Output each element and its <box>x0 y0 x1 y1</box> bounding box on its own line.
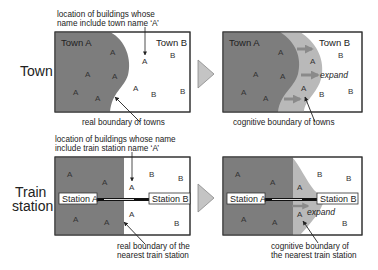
station-b-label: Station B <box>152 194 189 204</box>
letter-b: B <box>180 87 185 96</box>
letter-a: A <box>241 215 247 224</box>
town-note-line1: location of buildings whose <box>57 10 155 19</box>
letter-a: A <box>142 57 148 66</box>
letter-a: A <box>253 70 259 79</box>
station-cognitive-caption-line1: cognitive boundary of <box>271 242 350 251</box>
letter-a: A <box>112 72 118 81</box>
right-triangle-arrow-icon <box>198 184 214 212</box>
town-a-label: Town A <box>61 37 92 48</box>
letter-a: A <box>133 84 139 93</box>
letter-b: B <box>319 90 324 99</box>
letter-a: A <box>95 94 101 103</box>
letter-b: B <box>348 87 353 96</box>
row-label-train-line2: station <box>12 198 53 214</box>
letter-b: B <box>151 90 156 99</box>
station-b-label: Station B <box>320 194 357 204</box>
station-real-panel: location of buildings whose name include… <box>55 135 190 260</box>
expand-label: expand <box>320 70 348 80</box>
town-cognitive-caption: cognitive boundary of towns <box>233 118 335 127</box>
town-cognitive-panel: Town A Town B A A A A A A A B B B expand… <box>223 32 362 127</box>
station-note-line2: include train station name ‘A’ <box>55 144 159 153</box>
letter-a: A <box>102 178 108 187</box>
letter-b: B <box>317 170 322 179</box>
town-b-label: Town B <box>156 37 187 48</box>
letter-a: A <box>297 210 303 219</box>
letter-a: A <box>301 84 307 93</box>
station-a-label: Station A <box>230 194 266 204</box>
letter-b: B <box>178 174 183 183</box>
station-cognitive-panel: Station A Station B A A A A A A B B B ex… <box>223 157 362 260</box>
letter-a: A <box>73 215 79 224</box>
row-label-town: Town <box>20 63 53 79</box>
diagram-canvas: Town location of buildings whose name in… <box>0 0 378 270</box>
letter-a: A <box>67 170 73 179</box>
letter-b: B <box>170 51 175 60</box>
letter-b: B <box>342 219 347 228</box>
letter-a: A <box>241 88 247 97</box>
letter-a: A <box>280 72 286 81</box>
letter-a: A <box>85 70 91 79</box>
letter-a: A <box>129 183 135 192</box>
letter-a: A <box>270 178 276 187</box>
station-note-line1: location of buildings whose name <box>55 135 176 144</box>
letter-a: A <box>297 183 303 192</box>
station-cognitive-caption-line2: the nearest train station <box>271 251 357 260</box>
town-real-caption: real boundary of towns <box>82 118 165 127</box>
expand-label: expand <box>307 207 335 217</box>
town-b-label: Town B <box>319 37 350 48</box>
right-triangle-arrow-icon <box>198 60 214 88</box>
letter-a: A <box>263 94 269 103</box>
station-real-caption-line1: real boundary of the <box>117 242 190 251</box>
town-real-panel: location of buildings whose name include… <box>55 10 190 127</box>
letter-a: A <box>272 218 278 227</box>
letter-a: A <box>73 88 79 97</box>
letter-a: A <box>278 48 284 57</box>
letter-b: B <box>338 51 343 60</box>
letter-a: A <box>235 170 241 179</box>
letter-a: A <box>310 57 316 66</box>
letter-a: A <box>104 218 110 227</box>
town-note-line2: name include town name ‘A’ <box>57 19 159 28</box>
station-a-label: Station A <box>62 194 98 204</box>
station-real-caption-line2: nearest train station <box>117 251 189 260</box>
letter-a: A <box>110 48 116 57</box>
letter-b: B <box>149 170 154 179</box>
letter-b: B <box>346 174 351 183</box>
letter-b: B <box>174 219 179 228</box>
letter-a: A <box>129 210 135 219</box>
town-a-label: Town A <box>229 37 260 48</box>
